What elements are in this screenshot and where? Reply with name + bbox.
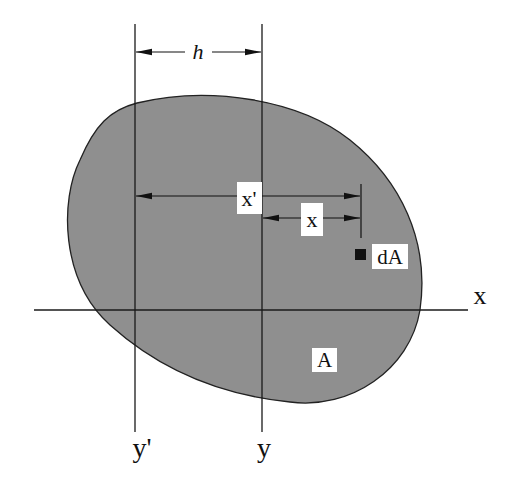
dA-element-square (355, 249, 366, 260)
diagram-canvas: h x' x dA x A y' y (0, 0, 514, 499)
y-axis-label: y (257, 432, 271, 463)
x-prime-label: x' (242, 186, 257, 211)
dA-label: dA (377, 245, 404, 269)
h-label: h (193, 39, 204, 64)
area-shape (68, 95, 422, 403)
x-dist-label: x (307, 207, 318, 232)
x-axis-label: x (474, 281, 487, 310)
area-label: A (317, 348, 333, 372)
y-prime-axis-label: y' (132, 432, 151, 463)
